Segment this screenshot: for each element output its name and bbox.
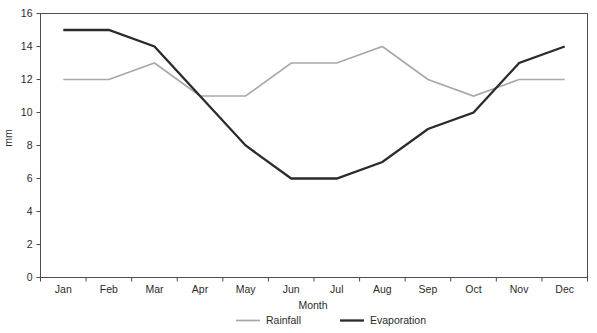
x-tick-label-apr: Apr bbox=[192, 283, 209, 295]
y-tick-label: 0 bbox=[27, 271, 33, 283]
y-tick-label: 4 bbox=[27, 205, 33, 217]
line-chart: 0246810121416 JanFebMarAprMayJunJulAugSe… bbox=[0, 0, 597, 333]
x-tick-label-nov: Nov bbox=[510, 283, 529, 295]
y-tick-label: 14 bbox=[21, 40, 33, 52]
x-tick-label-jan: Jan bbox=[55, 283, 72, 295]
y-tick-label: 16 bbox=[21, 7, 33, 19]
x-tick-label-sep: Sep bbox=[419, 283, 438, 295]
legend-label-evaporation: Evaporation bbox=[370, 314, 426, 326]
plot-area-border bbox=[41, 14, 588, 278]
x-tick-label-may: May bbox=[236, 283, 257, 295]
x-axis-title: Month bbox=[298, 299, 327, 311]
y-axis-title: mm bbox=[2, 129, 14, 147]
x-tick-label-aug: Aug bbox=[373, 283, 392, 295]
y-tick-label: 10 bbox=[21, 106, 33, 118]
series-line-evaporation bbox=[63, 30, 564, 179]
x-axis: JanFebMarAprMayJunJulAugSepOctNovDec bbox=[41, 278, 588, 295]
y-axis: 0246810121416 bbox=[21, 7, 41, 283]
chart-container: 0246810121416 JanFebMarAprMayJunJulAugSe… bbox=[0, 0, 597, 333]
y-tick-label: 6 bbox=[27, 172, 33, 184]
x-tick-label-oct: Oct bbox=[465, 283, 481, 295]
y-tick-label: 12 bbox=[21, 73, 33, 85]
x-tick-label-feb: Feb bbox=[100, 283, 118, 295]
y-tick-label: 8 bbox=[27, 139, 33, 151]
x-tick-label-dec: Dec bbox=[555, 283, 574, 295]
y-tick-label: 2 bbox=[27, 238, 33, 250]
legend-label-rainfall: Rainfall bbox=[266, 314, 301, 326]
chart-legend: RainfallEvaporation bbox=[236, 314, 426, 326]
x-tick-label-jul: Jul bbox=[330, 283, 343, 295]
series-line-rainfall bbox=[63, 47, 564, 97]
x-tick-label-jun: Jun bbox=[283, 283, 300, 295]
data-series-group bbox=[63, 30, 564, 179]
x-tick-label-mar: Mar bbox=[145, 283, 164, 295]
